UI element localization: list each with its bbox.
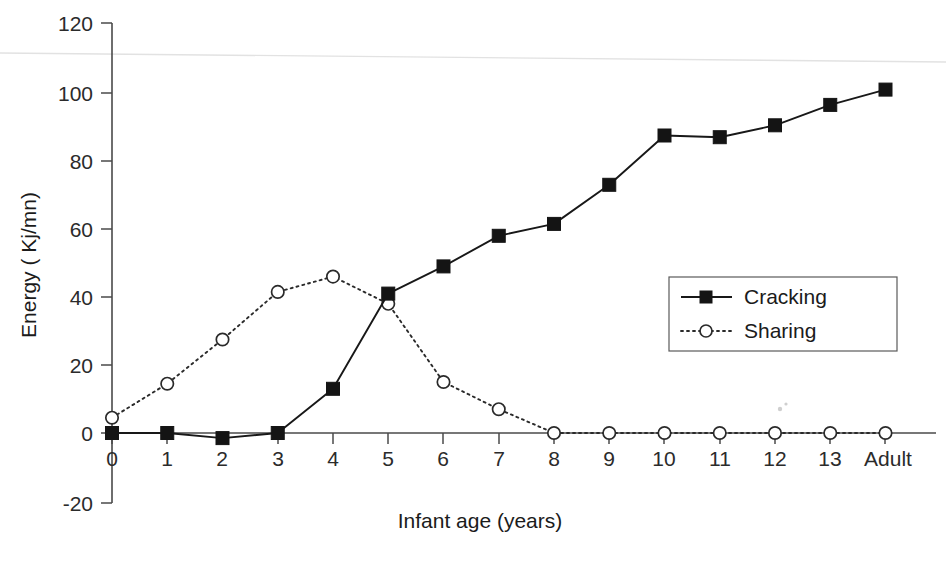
- x-tick-label: 7: [493, 447, 505, 470]
- data-point-marker-square[interactable]: [769, 119, 782, 132]
- y-tick-label: 40: [70, 286, 93, 309]
- chart-figure: 120 100 80 60 40 20 0 -20: [0, 0, 946, 561]
- legend-label-cracking: Cracking: [744, 285, 827, 308]
- legend-label-sharing: Sharing: [744, 319, 816, 342]
- data-point-marker-square[interactable]: [548, 217, 561, 230]
- data-point-marker-square[interactable]: [161, 427, 174, 440]
- data-point-marker-circle[interactable]: [437, 376, 449, 388]
- series-line-cracking: [112, 90, 886, 439]
- x-axis-tick-labels: 0 1 2 3 4 5 6 7 8 9 10 11 12 13 Adult: [106, 447, 912, 470]
- x-tick-label: 10: [652, 447, 675, 470]
- series-cracking: [106, 83, 893, 445]
- data-point-marker-square[interactable]: [216, 432, 229, 445]
- data-point-marker-square[interactable]: [437, 260, 450, 273]
- x-tick-label: 8: [548, 447, 560, 470]
- data-point-marker-circle[interactable]: [714, 427, 726, 439]
- x-tick-label: 12: [763, 447, 786, 470]
- x-axis-title: Infant age (years): [398, 509, 563, 532]
- y-tick-label: 0: [81, 422, 93, 445]
- x-tick-label: 3: [272, 447, 284, 470]
- data-point-marker-circle[interactable]: [879, 427, 891, 439]
- data-point-marker-circle[interactable]: [658, 427, 670, 439]
- data-point-marker-circle[interactable]: [106, 412, 118, 424]
- data-point-marker-square[interactable]: [271, 427, 284, 440]
- data-point-marker-square[interactable]: [658, 129, 671, 142]
- data-point-marker-circle[interactable]: [824, 427, 836, 439]
- x-tick-label: 6: [437, 447, 449, 470]
- x-tick-label: 2: [216, 447, 228, 470]
- y-tick-label: 60: [70, 218, 93, 241]
- y-tick-label: -20: [63, 492, 93, 515]
- line-chart-canvas: 120 100 80 60 40 20 0 -20: [0, 0, 946, 561]
- scan-speck: [784, 402, 787, 405]
- data-point-marker-square[interactable]: [106, 427, 119, 440]
- legend-marker-open-circle: [700, 325, 712, 337]
- data-point-marker-circle[interactable]: [603, 427, 615, 439]
- data-point-marker-square[interactable]: [492, 229, 505, 242]
- data-point-marker-square[interactable]: [327, 382, 340, 395]
- data-point-marker-square[interactable]: [382, 287, 395, 300]
- x-tick-label: 4: [327, 447, 339, 470]
- data-point-marker-square[interactable]: [879, 83, 892, 96]
- x-tick-label: 9: [603, 447, 615, 470]
- x-tick-label: 11: [709, 447, 731, 470]
- y-tick-label: 20: [70, 354, 93, 377]
- data-point-marker-circle[interactable]: [161, 378, 173, 390]
- data-point-marker-circle[interactable]: [272, 286, 284, 298]
- scan-artifact-line: [0, 53, 946, 62]
- y-tick-label: 80: [70, 150, 93, 173]
- data-point-marker-circle[interactable]: [548, 427, 560, 439]
- x-tick-label: Adult: [864, 447, 912, 470]
- data-point-marker-square[interactable]: [603, 178, 616, 191]
- y-tick-label: 120: [58, 12, 93, 35]
- data-point-marker-circle[interactable]: [493, 403, 505, 415]
- data-point-marker-circle[interactable]: [769, 427, 781, 439]
- data-point-marker-circle[interactable]: [216, 333, 228, 345]
- x-tick-label: 13: [818, 447, 841, 470]
- x-tick-label: 5: [382, 447, 394, 470]
- y-axis-title: Energy ( Kj/mn): [17, 192, 40, 338]
- chart-legend: Cracking Sharing: [669, 277, 897, 351]
- legend-marker-filled-square: [700, 291, 712, 303]
- data-point-marker-circle[interactable]: [327, 270, 339, 282]
- data-point-marker-square[interactable]: [824, 98, 837, 111]
- scan-speck: [778, 407, 782, 411]
- y-axis-tick-labels: 120 100 80 60 40 20 0 -20: [58, 12, 93, 515]
- x-tick-label: 1: [161, 447, 173, 470]
- data-point-marker-square[interactable]: [713, 131, 726, 144]
- x-tick-label: 0: [106, 447, 118, 470]
- y-tick-label: 100: [58, 82, 93, 105]
